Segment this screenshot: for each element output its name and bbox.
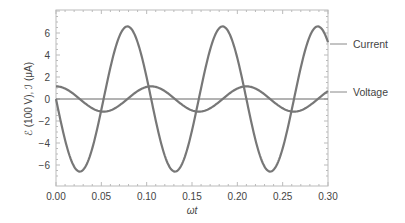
y-tick-label: 0	[44, 94, 50, 105]
x-axis-label: ωt	[187, 205, 199, 216]
y-tick-label: −6	[39, 160, 51, 171]
x-tick-label: 0.25	[273, 191, 293, 202]
x-tick-label: 0.05	[92, 191, 112, 202]
x-tick-label: 0.00	[46, 191, 66, 202]
voltage-label: Voltage	[353, 86, 388, 98]
x-tick-label: 0.20	[228, 191, 248, 202]
y-tick-label: −4	[39, 138, 51, 149]
y-tick-label: 6	[44, 28, 50, 39]
x-tick-labels: 0.000.050.100.150.200.250.30	[46, 191, 338, 202]
x-tick-label: 0.30	[318, 191, 338, 202]
y-tick-label: 2	[44, 72, 50, 83]
y-tick-label: −2	[39, 116, 51, 127]
y-axis-label: ℰ (100 V), ℐ (μA)	[23, 62, 34, 136]
x-tick-label: 0.10	[137, 191, 157, 202]
plot-frame	[56, 10, 328, 186]
y-tick-labels: −6−4−20246	[39, 28, 51, 171]
x-tick-label: 0.15	[182, 191, 202, 202]
chart: 0.000.050.100.150.200.250.30 −6−4−20246 …	[0, 0, 405, 223]
axis-ticks	[56, 10, 328, 186]
y-tick-label: 4	[44, 50, 50, 61]
current-label: Current	[353, 38, 388, 50]
